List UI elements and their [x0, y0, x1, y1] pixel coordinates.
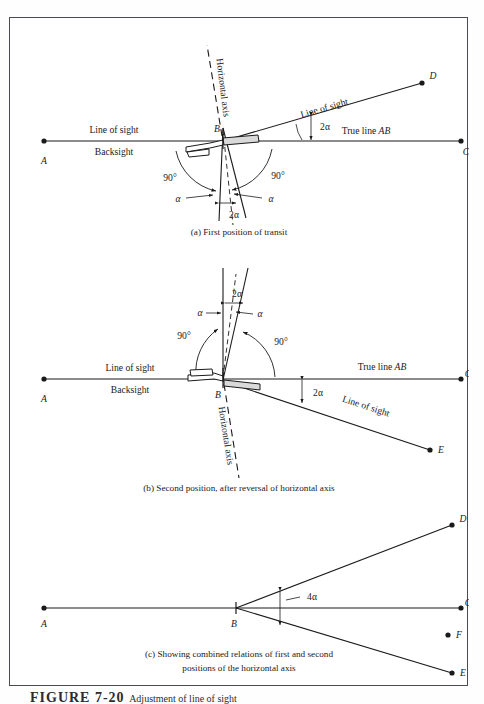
point-d-dot	[419, 80, 424, 85]
label-line-of-sight-right: Line of sight	[299, 96, 349, 120]
label-backsight-b: Backsight	[111, 384, 150, 395]
point-d-dot-c	[449, 522, 454, 527]
point-e-dot-b	[427, 447, 432, 452]
panel-a: Line of sight Backsight True line AB Lin…	[40, 45, 469, 237]
point-label-a-b: A	[40, 393, 47, 404]
point-c-dot	[458, 138, 463, 143]
alpha-right-leader	[234, 194, 262, 198]
label-alpha-right-b: α	[257, 308, 263, 319]
point-label-b: B	[214, 123, 220, 134]
point-label-c-c: C	[465, 597, 469, 608]
label-two-alpha-lower: 2α	[229, 209, 239, 220]
point-a-dot	[41, 138, 46, 143]
point-a-dot-c	[41, 605, 46, 610]
angle-arc-90-right	[232, 149, 272, 190]
figure-page: Line of sight Backsight True line AB Lin…	[0, 0, 484, 704]
label-alpha-left: α	[175, 193, 181, 204]
alpha-right-leader-b	[236, 312, 253, 314]
figure-caption: FIGURE 7-20 Adjustment of line of sight	[30, 690, 237, 704]
label-angle-90-right: 90°	[271, 170, 285, 181]
label-angle-90-left-b: 90°	[177, 330, 191, 341]
transit-telescope-symbol-a	[186, 134, 259, 157]
point-label-d: D	[429, 70, 437, 81]
label-true-line-ab-b: True line AB	[358, 361, 407, 372]
angle-arc-90-left	[176, 151, 216, 191]
label-two-alpha-upper: 2α	[320, 121, 330, 132]
point-label-b-c: B	[231, 618, 237, 629]
label-backsight: Backsight	[95, 146, 134, 157]
point-e-dot-c	[449, 670, 454, 675]
label-line-of-sight-left-b: Line of sight	[105, 362, 154, 373]
figure-canvas: Line of sight Backsight True line AB Lin…	[10, 18, 469, 687]
point-label-c-b: C	[465, 368, 469, 379]
panel-b-caption: (b) Second position, after reversal of h…	[143, 483, 335, 493]
figure-frame: Line of sight Backsight True line AB Lin…	[9, 17, 468, 686]
figure-title: Adjustment of line of sight	[129, 693, 237, 704]
angle-arc-90-right-b	[243, 332, 275, 377]
point-label-e-b: E	[437, 444, 444, 455]
alpha-left-leader	[186, 195, 213, 198]
point-f-dot-c	[445, 632, 450, 637]
point-label-f-c: F	[455, 629, 462, 640]
panel-c: 4α A B C D E F (c) Showing combined rela…	[40, 513, 469, 678]
four-alpha-leader	[286, 597, 300, 600]
point-label-e-c: E	[459, 667, 466, 678]
label-line-of-sight-right-b: Line of sight	[341, 393, 391, 419]
two-alpha-arc	[296, 124, 302, 140]
figure-number: FIGURE 7-20	[30, 690, 125, 704]
panel-c-caption-line2: positions of the horizontal axis	[182, 663, 296, 673]
panel-c-caption-line1: (c) Showing combined relations of first …	[145, 649, 333, 659]
line-bd-c	[236, 525, 452, 608]
label-angle-90-left: 90°	[163, 172, 177, 183]
line-of-sight-be	[223, 381, 430, 450]
point-label-a-c: A	[40, 618, 47, 629]
label-true-line-ab: True line AB	[342, 125, 391, 136]
point-c-dot-b	[458, 376, 463, 381]
label-two-alpha-upper-b: 2α	[232, 288, 242, 299]
point-label-c: C	[463, 146, 469, 157]
label-angle-90-right-b: 90°	[274, 336, 288, 347]
label-horizontal-axis-b: Horizontal axis	[216, 406, 236, 466]
point-c-dot-c	[458, 605, 463, 610]
point-label-a: A	[40, 155, 47, 166]
tilted-axis-line-b	[223, 268, 248, 380]
label-alpha-right: α	[268, 193, 274, 204]
panel-b: Line of sight Backsight True line AB Lin…	[40, 268, 469, 493]
label-alpha-left-b: α	[197, 307, 203, 318]
label-two-alpha-right-b: 2α	[313, 387, 323, 398]
label-four-alpha: 4α	[307, 591, 317, 602]
point-label-d-c: D	[459, 513, 467, 524]
label-line-of-sight-left: Line of sight	[89, 124, 138, 135]
panel-a-caption: (a) First position of transit	[191, 227, 288, 237]
point-label-b-b: B	[215, 389, 221, 400]
point-a-dot-b	[41, 376, 46, 381]
